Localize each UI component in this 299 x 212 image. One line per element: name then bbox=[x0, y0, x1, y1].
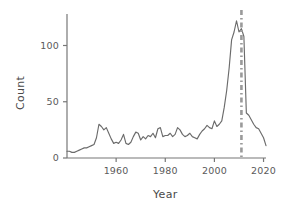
x-tick-label: 2020 bbox=[242, 165, 286, 176]
x-tick-label: 2000 bbox=[192, 165, 236, 176]
x-axis-title: Year bbox=[153, 188, 178, 201]
y-tick-label: 50 bbox=[23, 96, 59, 107]
chart-container: 050100 1960198020002020 Count Year bbox=[0, 0, 299, 212]
x-tick-label: 1960 bbox=[94, 165, 138, 176]
y-tick-label: 0 bbox=[23, 152, 59, 163]
x-axis-ticks bbox=[116, 158, 263, 162]
x-tick-label: 1980 bbox=[143, 165, 187, 176]
y-tick-label: 100 bbox=[23, 40, 59, 51]
data-series-line bbox=[67, 21, 266, 153]
y-axis-title: Count bbox=[14, 76, 27, 110]
